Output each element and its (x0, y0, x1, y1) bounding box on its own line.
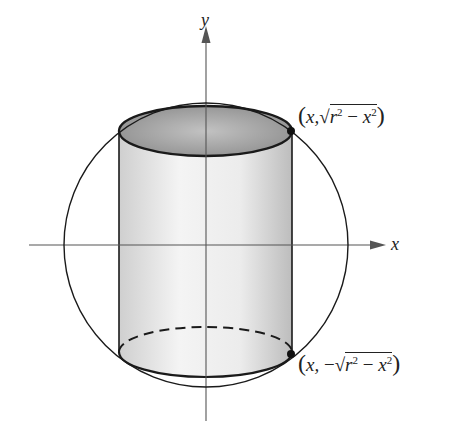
point-top-right (287, 127, 295, 135)
y-axis-label: y (201, 10, 209, 31)
paren-close: ) (377, 102, 385, 128)
x-var: x (378, 354, 386, 375)
x-axis-label: x (391, 234, 399, 255)
radicand: r2 − x2 (330, 104, 377, 127)
point-bottom-right (287, 350, 295, 358)
paren-open: ( (298, 102, 306, 128)
sqrt-icon: √ (335, 354, 345, 375)
paren-close: ) (392, 350, 400, 376)
sign: − (319, 354, 334, 375)
paren-open: ( (298, 350, 306, 376)
point-label-top: (x,√r2 − x2) (298, 102, 385, 129)
x-axis-arrow-icon (370, 241, 386, 250)
r-var: r (345, 354, 352, 375)
x-coord: x, (306, 354, 319, 375)
x-coord: x, (306, 106, 319, 127)
x-var: x (363, 106, 371, 127)
radicand: r2 − x2 (345, 352, 392, 375)
r-var: r (330, 106, 337, 127)
minus: − (343, 106, 363, 127)
sqrt-icon: √ (319, 106, 329, 127)
point-label-bottom: (x, −√r2 − x2) (298, 350, 400, 377)
minus: − (358, 354, 378, 375)
